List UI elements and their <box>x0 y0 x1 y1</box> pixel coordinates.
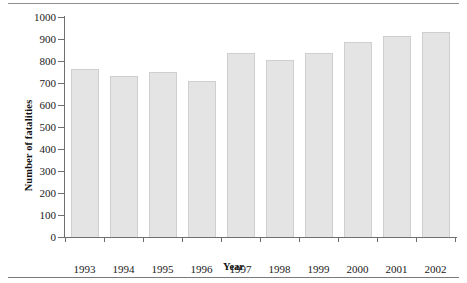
y-tick-label: 400 <box>40 143 57 155</box>
y-tick-mark <box>58 127 65 128</box>
top-divider-rule <box>8 3 459 4</box>
bar-2000 <box>344 42 372 237</box>
x-tick-mark <box>65 237 66 242</box>
x-axis-line <box>58 237 457 238</box>
bar-2002 <box>422 32 450 237</box>
y-tick-mark <box>58 105 65 106</box>
y-tick-mark <box>58 39 65 40</box>
x-tick-mark <box>260 237 261 242</box>
x-tick-mark <box>377 237 378 242</box>
x-tick-mark <box>143 237 144 242</box>
bar-1999 <box>305 53 333 237</box>
x-tick-mark <box>221 237 222 242</box>
bar-1997 <box>227 53 255 237</box>
x-tick-mark <box>455 237 456 242</box>
y-tick-mark <box>58 61 65 62</box>
x-tick-mark <box>104 237 105 242</box>
x-tick-mark <box>182 237 183 242</box>
bar-2001 <box>383 36 411 237</box>
y-axis-title: Number of fatalities <box>23 56 34 236</box>
y-tick-mark <box>58 215 65 216</box>
bar-1996 <box>188 81 216 237</box>
y-tick-label: 600 <box>40 99 57 111</box>
y-tick-mark <box>58 193 65 194</box>
y-tick-label: 500 <box>40 121 57 133</box>
bar-1993 <box>71 69 99 237</box>
y-tick-label: 900 <box>40 33 57 45</box>
y-tick-label: 0 <box>51 231 57 243</box>
plot-area: 10009008007006005004003002001000 1993199… <box>65 17 455 237</box>
y-tick-label: 100 <box>40 209 57 221</box>
y-tick-label: 300 <box>40 165 57 177</box>
chart-figure: Number of fatalities 1000900800700600500… <box>0 0 467 283</box>
y-tick-mark <box>58 17 65 18</box>
y-tick-mark <box>58 237 65 238</box>
x-tick-mark <box>416 237 417 242</box>
x-tick-mark <box>299 237 300 242</box>
y-tick-mark <box>58 83 65 84</box>
y-tick-label: 700 <box>40 77 57 89</box>
y-tick-label: 200 <box>40 187 57 199</box>
y-tick-label: 800 <box>40 55 57 67</box>
y-tick-mark <box>58 149 65 150</box>
bar-1998 <box>266 60 294 237</box>
bar-1994 <box>110 76 138 237</box>
x-tick-mark <box>338 237 339 242</box>
bar-1995 <box>149 72 177 237</box>
x-axis-title: Year <box>0 261 467 272</box>
bottom-divider-rule <box>8 277 459 278</box>
y-tick-mark <box>58 171 65 172</box>
y-tick-label: 1000 <box>34 11 56 23</box>
